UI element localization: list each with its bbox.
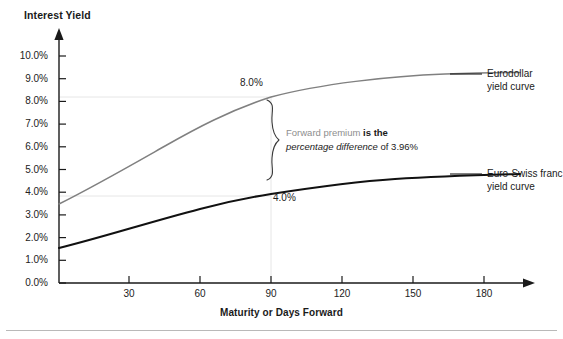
x-axis-ticks [129,276,484,283]
y-axis-arrowhead [54,28,63,40]
callout-eurodollar-line-2: yield curve [487,80,535,93]
annotation-line-1-tail: is the [360,127,387,138]
annotation-term-percentage-difference: percentage difference [286,141,378,152]
y-axis-title: Interest Yield [24,9,91,21]
y-tick-label-7: 7.0% [4,118,48,129]
yield-curve-chart: Interest Yield Maturity or Days Forward … [0,0,563,339]
y-tick-label-9: 9.0% [4,73,48,84]
x-axis-arrowhead [523,278,535,287]
x-tick-label-30: 30 [109,288,149,299]
x-tick-label-180: 180 [464,288,504,299]
euro-swiss-franc-yield-curve [59,174,520,248]
x-tick-label-120: 120 [322,288,362,299]
callout-eurodollar-line-1: Eurodollar [487,67,535,80]
y-tick-label-6: 6.0% [4,141,48,152]
y-tick-label-1: 1.0% [4,254,48,265]
footer-divider [6,330,557,331]
data-label-euroswiss-90d: 4.0% [273,192,296,203]
y-tick-label-2: 2.0% [4,232,48,243]
callout-euro-swiss-franc: Euro-Swiss franc yield curve [487,167,563,193]
data-label-eurodollar-90d: 8.0% [240,77,263,88]
x-tick-label-60: 60 [180,288,220,299]
y-tick-label-4: 4.0% [4,186,48,197]
y-axis-ticks [59,56,66,283]
x-tick-label-90: 90 [251,288,291,299]
y-tick-label-3: 3.0% [4,209,48,220]
annotation-term-forward-premium: Forward premium [286,127,360,138]
forward-premium-brace [267,100,279,180]
callout-euro-swiss-franc-line-2: yield curve [487,180,563,193]
y-tick-label-5: 5.0% [4,164,48,175]
x-axis-title: Maturity or Days Forward [0,307,563,318]
annotation-line-2: percentage difference of 3.96% [286,140,418,154]
y-tick-label-10: 10.0% [4,50,48,61]
forward-premium-annotation: Forward premium is the percentage differ… [286,126,418,153]
y-tick-label-0: 0.0% [4,277,48,288]
y-tick-label-8: 8.0% [4,95,48,106]
callout-eurodollar: Eurodollar yield curve [487,67,535,93]
callout-euro-swiss-franc-line-1: Euro-Swiss franc [487,167,563,180]
annotation-line-1: Forward premium is the [286,126,418,140]
x-tick-label-150: 150 [393,288,433,299]
annotation-line-2-tail: of 3.96% [378,141,418,152]
